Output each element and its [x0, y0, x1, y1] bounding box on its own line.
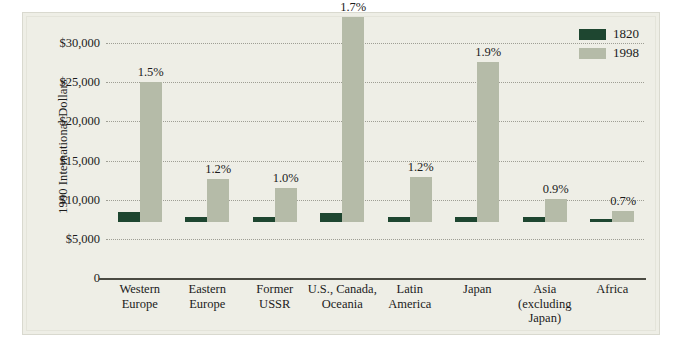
- y-axis-tick-label: $30,000: [59, 36, 100, 51]
- y-axis-title: 1990 International Dollars: [56, 37, 71, 257]
- bar-group: 0.9%: [521, 0, 569, 222]
- bar-value-label: 1.9%: [475, 45, 501, 60]
- label-line: Japan): [490, 311, 600, 326]
- legend-item[interactable]: 1998: [579, 45, 639, 61]
- legend-label: 1820: [613, 26, 639, 42]
- bar-groups: 1.5%1.2%1.0%1.7%1.2%1.9%0.9%0.7%: [106, 13, 646, 280]
- bar-1998[interactable]: 1.5%: [140, 82, 162, 222]
- y-axis-tick-label: $15,000: [59, 153, 100, 168]
- bar-1820[interactable]: [253, 217, 275, 222]
- bar-1820[interactable]: [320, 213, 342, 222]
- bar-1820[interactable]: [118, 212, 140, 222]
- bar-1998[interactable]: 1.9%: [477, 62, 499, 222]
- bar-group: 1.7%: [318, 0, 366, 222]
- legend-swatch-icon: [579, 29, 606, 40]
- bar-1820[interactable]: [185, 217, 207, 222]
- x-axis-category-label: Africa: [557, 282, 667, 297]
- chart-plate: 1990 International Dollars $30,000$25,00…: [22, 12, 660, 335]
- y-axis-tick-label: $10,000: [59, 192, 100, 207]
- bar-group: 1.9%: [453, 0, 501, 222]
- bar-value-label: 0.7%: [610, 194, 636, 209]
- bar-group: 1.2%: [183, 0, 231, 222]
- legend-item[interactable]: 1820: [579, 26, 639, 42]
- plot-area: $30,000$25,000$20,000$15,000$10,000$5,00…: [106, 13, 666, 336]
- x-axis-origin-tick: [99, 278, 106, 280]
- label-line: (excluding: [490, 297, 600, 312]
- legend-swatch-icon: [579, 48, 606, 59]
- bar-1998[interactable]: 1.7%: [342, 17, 364, 222]
- chart-figure: 1990 International Dollars $30,000$25,00…: [0, 0, 683, 353]
- bar-1820[interactable]: [455, 217, 477, 222]
- legend: 18201998: [579, 26, 639, 61]
- bar-1998[interactable]: 0.9%: [545, 199, 567, 222]
- bar-1998[interactable]: 1.2%: [207, 179, 229, 222]
- bar-1998[interactable]: 0.7%: [612, 211, 634, 222]
- bar-1998[interactable]: 1.0%: [275, 188, 297, 222]
- y-axis-tick-label: $20,000: [59, 114, 100, 129]
- bar-group: 1.0%: [251, 0, 299, 222]
- label-line: Africa: [557, 282, 667, 297]
- bar-value-label: 1.5%: [138, 65, 164, 80]
- bar-group: 1.2%: [386, 0, 434, 222]
- bar-group: 1.5%: [116, 0, 164, 222]
- bar-value-label: 1.0%: [273, 171, 299, 186]
- bar-value-label: 1.7%: [340, 0, 366, 15]
- y-axis-tick-label: $5,000: [66, 231, 100, 246]
- legend-label: 1998: [613, 45, 639, 61]
- bar-1998[interactable]: 1.2%: [410, 177, 432, 222]
- bar-1820[interactable]: [523, 217, 545, 222]
- bar-value-label: 0.9%: [543, 182, 569, 197]
- bar-1820[interactable]: [388, 217, 410, 222]
- y-axis-tick-label: $25,000: [59, 75, 100, 90]
- label-line: America: [355, 297, 465, 312]
- bar-1820[interactable]: [590, 219, 612, 222]
- bar-value-label: 1.2%: [205, 162, 231, 177]
- bar-value-label: 1.2%: [408, 160, 434, 175]
